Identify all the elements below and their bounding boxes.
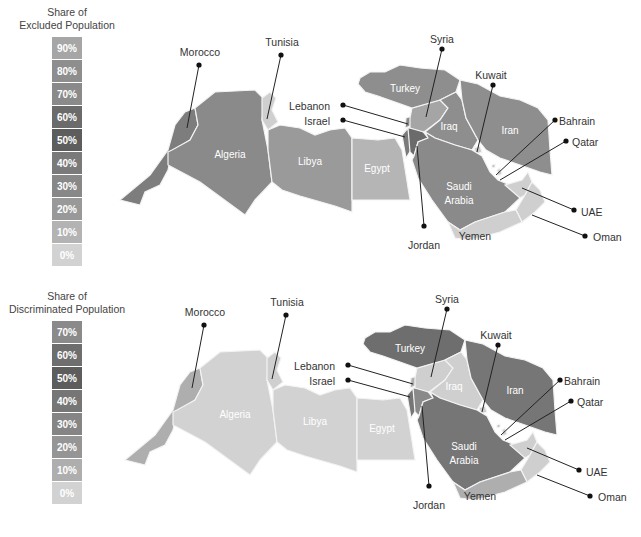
callout-dot-morocco <box>196 62 201 67</box>
callout-dot-jordan <box>421 223 426 228</box>
callout-label-tunisia: Tunisia <box>265 36 299 48</box>
callout-label-bahrain: Bahrain <box>559 115 595 127</box>
callout-dot-kuwait <box>495 342 500 347</box>
callout-label-morocco: Morocco <box>180 46 220 58</box>
callout-label-kuwait: Kuwait <box>480 329 512 341</box>
map-excluded: AlgeriaLibyaEgyptTurkeyIraqIranSaudiArab… <box>120 33 622 251</box>
callout-label-jordan: Jordan <box>408 239 440 251</box>
callout-label-oman: Oman <box>598 491 627 503</box>
callout-dot-israel <box>345 377 350 382</box>
callout-label-syria: Syria <box>435 293 459 305</box>
callout-label-jordan: Jordan <box>413 499 445 511</box>
country-label-yemen: Yemen <box>464 490 496 502</box>
callout-dot-tunisia <box>278 52 283 57</box>
callout-dot-qatar <box>568 398 573 403</box>
country-bahrain <box>492 164 495 168</box>
country-libya <box>268 125 352 212</box>
country-label-yemen: Yemen <box>459 230 491 242</box>
country-label-saudi-line2: Arabia <box>450 455 479 466</box>
map-discriminated: AlgeriaLibyaEgyptTurkeyIraqIranSaudiArab… <box>125 293 627 511</box>
leader-line-tunisia <box>267 55 281 119</box>
callout-dot-lebanon <box>340 102 345 107</box>
leader-line-israel <box>343 120 405 137</box>
callout-label-tunisia: Tunisia <box>270 296 304 308</box>
callout-dot-kuwait <box>490 82 495 87</box>
country-label-egypt: Egypt <box>364 163 390 174</box>
leader-line-lebanon <box>348 365 413 384</box>
callout-dot-bahrain <box>552 117 557 122</box>
callout-dot-syria <box>444 306 449 311</box>
callout-dot-lebanon <box>345 362 350 367</box>
leader-line-tunisia <box>272 315 286 379</box>
country-label-egypt: Egypt <box>369 423 395 434</box>
callout-label-syria: Syria <box>430 33 454 45</box>
callout-label-qatar: Qatar <box>577 396 604 408</box>
country-label-algeria: Algeria <box>214 149 246 160</box>
callout-label-bahrain: Bahrain <box>564 375 600 387</box>
callout-label-uae: UAE <box>581 206 603 218</box>
country-label-saudi-line2: Arabia <box>445 195 474 206</box>
country-libya <box>273 385 357 472</box>
maps-canvas: AlgeriaLibyaEgyptTurkeyIraqIranSaudiArab… <box>0 0 641 537</box>
leader-line-oman <box>537 475 590 496</box>
leader-line-lebanon <box>343 105 408 124</box>
callout-dot-syria <box>439 46 444 51</box>
callout-dot-bahrain <box>557 377 562 382</box>
callout-label-israel: Israel <box>309 375 335 387</box>
callout-dot-tunisia <box>283 312 288 317</box>
country-label-saudi-line1: Saudi <box>446 181 472 192</box>
callout-dot-qatar <box>563 138 568 143</box>
callout-label-lebanon: Lebanon <box>289 100 330 112</box>
callout-dot-uae <box>576 467 581 472</box>
callout-dot-oman <box>582 233 587 238</box>
country-label-iran: Iran <box>506 385 523 396</box>
callout-label-uae: UAE <box>586 466 608 478</box>
callout-dot-oman <box>587 493 592 498</box>
country-label-iran: Iran <box>501 125 518 136</box>
callout-label-kuwait: Kuwait <box>475 69 507 81</box>
country-label-turkey: Turkey <box>390 83 420 94</box>
callout-label-israel: Israel <box>304 115 330 127</box>
country-label-libya: Libya <box>303 416 327 427</box>
country-tunisia <box>267 352 283 390</box>
country-label-turkey: Turkey <box>395 343 425 354</box>
callout-dot-israel <box>340 117 345 122</box>
callout-dot-uae <box>571 207 576 212</box>
country-label-iraq: Iraq <box>440 121 457 132</box>
callout-label-lebanon: Lebanon <box>294 360 335 372</box>
callout-dot-morocco <box>201 322 206 327</box>
callout-label-qatar: Qatar <box>572 136 599 148</box>
leader-line-israel <box>348 380 410 397</box>
country-label-libya: Libya <box>298 156 322 167</box>
country-label-saudi-line1: Saudi <box>451 441 477 452</box>
country-bahrain <box>497 424 500 428</box>
country-label-iraq: Iraq <box>445 381 462 392</box>
country-label-algeria: Algeria <box>219 409 251 420</box>
country-tunisia <box>262 92 278 130</box>
callout-label-morocco: Morocco <box>185 306 225 318</box>
callout-dot-jordan <box>426 483 431 488</box>
leader-line-oman <box>532 215 585 236</box>
callout-label-oman: Oman <box>593 231 622 243</box>
